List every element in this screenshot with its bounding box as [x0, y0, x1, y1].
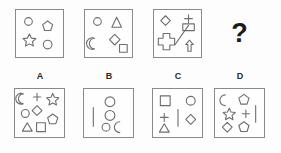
circle-icon — [21, 110, 29, 118]
circle-icon — [105, 111, 115, 121]
matrix-cell-2 — [84, 9, 133, 58]
square-icon — [160, 96, 170, 106]
triangle-icon — [22, 123, 32, 131]
pentagon-icon — [239, 122, 249, 132]
answer-option-a[interactable] — [14, 88, 65, 138]
circle-icon — [43, 40, 52, 49]
cross-icon — [158, 34, 174, 50]
star-icon — [47, 93, 59, 105]
option-label-a: A — [14, 71, 66, 81]
diamond-icon — [109, 34, 120, 45]
plus-icon — [33, 93, 40, 100]
answer-option-c-shapes — [153, 89, 202, 137]
pentagon-icon — [43, 21, 53, 30]
square-icon — [37, 123, 46, 132]
circle-icon — [94, 18, 102, 26]
option-label-b: B — [83, 71, 135, 81]
matrix-cell-2-shapes — [85, 10, 132, 57]
answer-option-b[interactable] — [83, 88, 134, 138]
pentagon-icon — [48, 114, 58, 124]
circle-icon — [186, 96, 195, 105]
answer-option-a-shapes — [15, 89, 64, 137]
answer-option-d-shapes — [215, 89, 264, 137]
diamond-icon — [222, 122, 232, 132]
circle-icon — [105, 97, 115, 107]
crescent-moon-icon — [87, 38, 95, 50]
option-label-d: D — [214, 71, 266, 81]
matrix-cell-3 — [153, 9, 202, 58]
matrix-cell-1-shapes — [16, 10, 63, 57]
answer-option-c[interactable] — [152, 88, 203, 138]
up-arrow-icon — [186, 40, 194, 51]
plus-icon — [160, 113, 168, 121]
answer-option-b-shapes — [84, 89, 133, 137]
circle-icon — [25, 18, 33, 26]
square-icon — [120, 45, 128, 53]
plus-icon — [242, 110, 249, 117]
star-icon — [23, 34, 36, 46]
crescent-moon-icon — [16, 93, 24, 104]
circle-icon — [102, 123, 110, 131]
triangle-icon — [112, 17, 122, 27]
diamond-icon — [32, 106, 42, 116]
crescent-moon-icon — [220, 95, 225, 106]
matrix-cell-3-shapes — [154, 10, 201, 57]
star-icon — [223, 108, 235, 120]
triangle-icon — [159, 124, 169, 132]
missing-cell-question-mark: ? — [215, 9, 264, 58]
plus-icon — [185, 15, 193, 23]
answer-option-d[interactable] — [214, 88, 265, 138]
diamond-icon — [186, 114, 196, 124]
diamond-icon — [161, 16, 171, 26]
diagonal-line-icon — [175, 25, 188, 44]
puzzle-container: ? A B C D — [0, 0, 281, 153]
matrix-cell-1 — [15, 9, 64, 58]
option-label-c: C — [152, 71, 204, 81]
pentagon-icon — [239, 94, 249, 104]
crescent-moon-icon — [114, 122, 119, 133]
